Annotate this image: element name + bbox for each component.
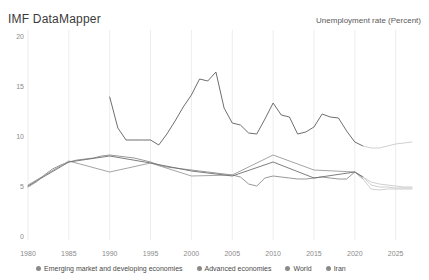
- legend-item-label: Advanced economies: [205, 265, 272, 272]
- x-tick-2005: 2005: [212, 250, 252, 257]
- series-emerging-market-and-developing-economies-projection: [363, 177, 412, 187]
- x-tick-1995: 1995: [131, 250, 171, 257]
- legend-item-label: World: [293, 265, 311, 272]
- legend-item-2[interactable]: World: [285, 265, 311, 272]
- legend-item-3[interactable]: Iran: [326, 265, 346, 272]
- x-tick-1980: 1980: [8, 250, 48, 257]
- legend-item-0[interactable]: Emerging market and developing economies: [36, 265, 183, 272]
- series-world-projection: [363, 177, 412, 188]
- legend-dot-icon: [326, 266, 331, 271]
- series-world-line: [28, 156, 363, 186]
- x-tick-2025: 2025: [376, 250, 416, 257]
- series-emerging-market-and-developing-economies-line: [28, 155, 363, 187]
- metric-label: Unemployment rate (Percent): [316, 16, 421, 25]
- page-title: IMF DataMapper: [8, 12, 101, 26]
- x-tick-1990: 1990: [90, 250, 130, 257]
- legend-item-1[interactable]: Advanced economies: [197, 265, 272, 272]
- legend-item-label: Iran: [334, 265, 346, 272]
- legend-dot-icon: [197, 266, 202, 271]
- y-tick-15: 15: [4, 83, 24, 90]
- x-tick-2000: 2000: [171, 250, 211, 257]
- series-iran-projection: [363, 142, 412, 148]
- chart-legend: Emerging market and developing economies…: [36, 265, 346, 272]
- chart-plot-area: [0, 30, 429, 245]
- chart-gridlines: [28, 30, 396, 240]
- x-tick-2020: 2020: [335, 250, 375, 257]
- series-iran-line: [110, 72, 363, 146]
- y-tick-0: 0: [4, 233, 24, 240]
- legend-item-label: Emerging market and developing economies: [44, 265, 183, 272]
- y-tick-10: 10: [4, 133, 24, 140]
- chart-svg: [0, 30, 429, 245]
- x-tick-2015: 2015: [294, 250, 334, 257]
- y-tick-5: 5: [4, 183, 24, 190]
- legend-dot-icon: [285, 266, 290, 271]
- legend-dot-icon: [36, 266, 41, 271]
- y-tick-20: 20: [4, 33, 24, 40]
- x-tick-1985: 1985: [49, 250, 89, 257]
- imf-datamapper-chart: IMF DataMapper Unemployment rate (Percen…: [0, 0, 429, 280]
- x-tick-2010: 2010: [253, 250, 293, 257]
